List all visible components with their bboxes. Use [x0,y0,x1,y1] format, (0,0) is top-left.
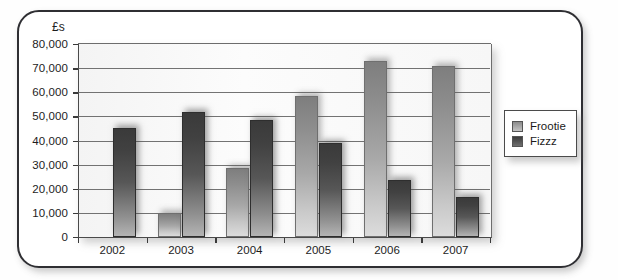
bar-fizzz-2002 [113,128,136,237]
bar-frootie-2003 [158,213,181,237]
legend-label-frootie: Frootie [530,120,566,132]
x-tick [490,238,491,243]
y-axis-label: 50,000 [8,110,68,122]
gridline [78,68,490,69]
y-tick [73,68,78,69]
gridline [78,116,490,117]
chart-screenshot: £s 80,00070,00060,00050,00040,00030,0002… [0,0,618,280]
y-axis-label: 70,000 [8,62,68,74]
y-axis-label: 0 [8,231,68,243]
x-tick [353,238,354,243]
chart-legend: Frootie Fizzz [504,110,577,157]
y-tick [73,165,78,166]
x-tick [78,238,79,243]
bar-fizzz-2006 [388,180,411,237]
x-tick [421,238,422,243]
y-axis-label: 80,000 [8,38,68,50]
y-axis-title: £s [52,20,65,34]
y-tick [73,92,78,93]
bar-fizzz-2003 [182,112,205,237]
legend-swatch-frootie [512,121,523,132]
y-axis-label: 40,000 [8,135,68,147]
legend-item-frootie[interactable]: Frootie [512,120,566,132]
bar-fizzz-2005 [319,143,342,237]
legend-label-fizzz: Fizzz [530,135,557,147]
gridline [78,189,490,190]
legend-swatch-fizzz [512,136,523,147]
x-tick [215,238,216,243]
y-tick [73,141,78,142]
bar-fizzz-2007 [456,197,479,237]
bar-frootie-2007 [432,66,455,237]
x-axis-label: 2002 [82,244,142,256]
x-axis-label: 2005 [288,244,348,256]
bar-frootie-2006 [364,61,387,237]
y-tick [73,189,78,190]
y-axis-label: 60,000 [8,86,68,98]
x-axis-label: 2004 [220,244,280,256]
gridline [78,165,490,166]
gridline [78,141,490,142]
bar-fizzz-2004 [250,120,273,237]
gridline [78,213,490,214]
y-axis-label: 30,000 [8,159,68,171]
x-tick [284,238,285,243]
y-axis-label: 10,000 [8,207,68,219]
x-axis-label: 2003 [151,244,211,256]
bar-frootie-2004 [226,168,249,237]
gridline [78,92,490,93]
x-axis-label: 2007 [426,244,486,256]
y-axis-label: 20,000 [8,183,68,195]
bar-frootie-2005 [295,96,318,237]
y-tick [73,213,78,214]
x-axis-label: 2006 [357,244,417,256]
x-tick [147,238,148,243]
legend-item-fizzz[interactable]: Fizzz [512,135,566,147]
y-tick [73,116,78,117]
y-tick [73,44,78,45]
